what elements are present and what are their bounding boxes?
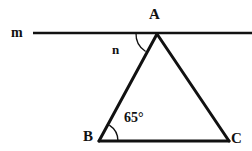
vertex-label-c: C xyxy=(231,131,242,146)
angle-value-label-b: 65° xyxy=(124,111,144,125)
vertex-label-a: A xyxy=(149,7,160,22)
angle-arc-b-icon xyxy=(109,125,118,141)
segment-ac xyxy=(157,34,229,141)
angle-arc-a-icon xyxy=(136,33,146,52)
vertex-label-b: B xyxy=(83,129,93,144)
line-label-m: m xyxy=(11,26,23,40)
angle-label-n: n xyxy=(112,43,119,56)
geometry-figure: A B C m n 65° xyxy=(0,0,252,151)
geometry-canvas xyxy=(0,0,252,151)
